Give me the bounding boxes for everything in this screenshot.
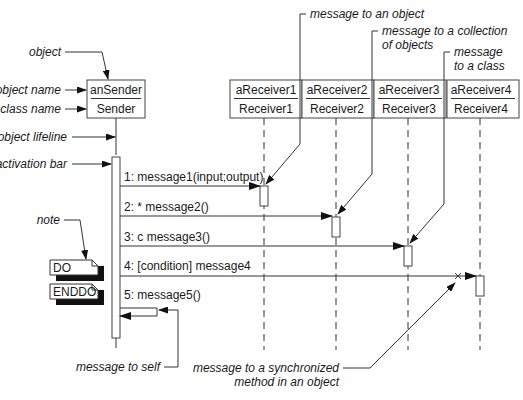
- activation-bar-receiver4: [476, 276, 484, 296]
- callout-class-name: class name: [0, 102, 86, 116]
- svg-text:activation bar: activation bar: [0, 157, 68, 171]
- object-name: aReceiver2: [307, 83, 368, 97]
- svg-text:to a class: to a class: [454, 59, 505, 73]
- sequence-diagram: anSender Sender aReceiver1 Receiver1 aRe…: [0, 0, 523, 400]
- note-enddo: ENDDO: [50, 284, 104, 305]
- object-box-areceiver3: aReceiver3 Receiver3: [374, 80, 446, 118]
- callout-synchronized-method: message to a synchronized method in an o…: [193, 283, 455, 389]
- class-name: Sender: [97, 102, 136, 116]
- object-box-areceiver2: aReceiver2 Receiver2: [302, 80, 374, 118]
- message-label: 3: c message3(): [124, 230, 210, 244]
- object-name: aReceiver3: [379, 83, 440, 97]
- svg-text:object: object: [29, 45, 62, 59]
- object-box-areceiver1: aReceiver1 Receiver1: [230, 80, 302, 118]
- object-box-ansender: anSender Sender: [87, 80, 145, 118]
- object-name: aReceiver4: [451, 83, 512, 97]
- note-text: ENDDO: [53, 285, 96, 299]
- callout-message-to-class: message to a class: [410, 45, 505, 243]
- class-name: Receiver3: [382, 102, 436, 116]
- callout-object-lifeline: object lifeline: [0, 130, 115, 144]
- callout-message-to-self: message to self: [76, 310, 178, 374]
- callout-note: note: [37, 213, 86, 259]
- object-name: aReceiver1: [236, 83, 297, 97]
- message-label: 5: message5(): [124, 288, 201, 302]
- message-4: 4: [condition] message4: [120, 259, 476, 279]
- svg-text:note: note: [37, 213, 61, 227]
- activation-bar-receiver3: [404, 246, 412, 266]
- class-name: Receiver1: [239, 102, 293, 116]
- callout-object-name: object name: [0, 83, 86, 97]
- svg-text:of objects: of objects: [382, 38, 433, 52]
- svg-text:message: message: [454, 45, 503, 59]
- svg-text:message to a collection: message to a collection: [382, 24, 508, 38]
- message-label: 2: * message2(): [124, 200, 209, 214]
- activation-bar-receiver1: [260, 186, 268, 206]
- svg-text:object name: object name: [0, 83, 61, 97]
- class-name: Receiver2: [310, 102, 364, 116]
- message-3: 3: c message3(): [120, 230, 404, 246]
- note-text: DO: [53, 261, 71, 275]
- note-do: DO: [50, 260, 104, 281]
- class-name: Receiver4: [454, 102, 508, 116]
- activation-bar-sender: [112, 157, 120, 338]
- activation-bar-receiver2: [332, 217, 340, 237]
- message-1: 1: message1(input;output): [120, 170, 263, 186]
- svg-text:message to a synchronized: message to a synchronized: [193, 361, 339, 375]
- message-label: 1: message1(input;output): [124, 170, 263, 184]
- svg-text:object lifeline: object lifeline: [0, 130, 67, 144]
- svg-text:class name: class name: [0, 102, 61, 116]
- message-label: 4: [condition] message4: [124, 259, 251, 273]
- svg-text:method in an object: method in an object: [234, 375, 339, 389]
- svg-text:message to an object: message to an object: [310, 7, 425, 21]
- svg-text:message to self: message to self: [76, 360, 162, 374]
- message-2: 2: * message2(): [120, 200, 332, 216]
- object-box-areceiver4: aReceiver4 Receiver4: [447, 80, 519, 118]
- object-name: anSender: [90, 83, 142, 97]
- callout-activation-bar: activation bar: [0, 157, 111, 171]
- message-5-self: 5: message5(): [120, 288, 201, 316]
- callout-object: object: [29, 45, 108, 79]
